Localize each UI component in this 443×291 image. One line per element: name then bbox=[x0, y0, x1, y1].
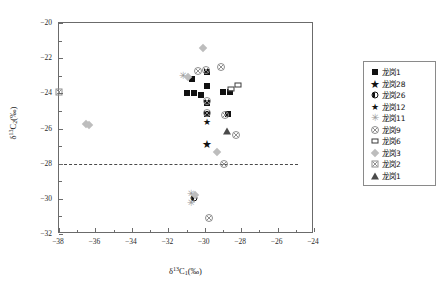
legend-item[interactable]: 龙岗1 bbox=[368, 66, 432, 78]
legend-item[interactable]: 龙岗26 bbox=[368, 89, 432, 101]
y-tick-minor bbox=[59, 181, 62, 182]
y-tick bbox=[59, 199, 63, 200]
plot-area: ★★✳✳✳ bbox=[58, 22, 313, 233]
x-tick-minor bbox=[114, 230, 115, 233]
x-tick-label: −32 bbox=[161, 237, 173, 246]
x-tick-label: −38 bbox=[52, 237, 64, 246]
legend-label: 龙岗6 bbox=[382, 135, 401, 146]
y-tick-minor bbox=[59, 41, 62, 42]
data-point bbox=[232, 131, 240, 139]
data-point bbox=[203, 109, 211, 117]
x-tick-minor bbox=[223, 230, 224, 233]
legend-item[interactable]: ★龙岗12 bbox=[368, 101, 432, 113]
data-point bbox=[217, 63, 225, 71]
legend-marker-icon: ★ bbox=[368, 101, 382, 113]
data-point bbox=[191, 90, 197, 96]
y-tick-minor bbox=[59, 111, 62, 112]
legend-item[interactable]: 龙岗9 bbox=[368, 124, 432, 136]
data-point bbox=[220, 160, 228, 168]
legend-marker-icon bbox=[368, 135, 382, 147]
data-point bbox=[223, 128, 231, 135]
y-tick-minor bbox=[59, 216, 62, 217]
legend[interactable]: 龙岗1★龙岗28龙岗26★龙岗12✳龙岗11龙岗9龙岗6龙岗3龙岗2龙岗1 bbox=[363, 61, 436, 186]
y-tick-label: −20 bbox=[24, 18, 52, 27]
x-tick bbox=[241, 228, 242, 232]
legend-item[interactable]: 龙岗2 bbox=[368, 158, 432, 170]
data-point bbox=[204, 83, 210, 89]
x-tick-minor bbox=[296, 230, 297, 233]
data-point: ★ bbox=[202, 141, 212, 147]
data-point bbox=[203, 97, 211, 105]
data-point bbox=[184, 90, 190, 96]
x-tick-label: −24 bbox=[307, 237, 319, 246]
x-tick bbox=[205, 228, 206, 232]
data-point bbox=[221, 111, 229, 119]
x-tick-minor bbox=[150, 230, 151, 233]
y-tick bbox=[59, 93, 63, 94]
y-tick-label: −24 bbox=[24, 88, 52, 97]
x-tick bbox=[132, 228, 133, 232]
x-tick-minor bbox=[187, 230, 188, 233]
legend-label: 龙岗9 bbox=[382, 124, 401, 135]
y-tick bbox=[59, 58, 63, 59]
legend-marker-icon bbox=[368, 66, 382, 78]
legend-label: 龙岗26 bbox=[382, 89, 406, 100]
data-point bbox=[235, 83, 242, 88]
y-tick-label: −30 bbox=[24, 193, 52, 202]
y-tick bbox=[59, 164, 63, 165]
legend-label: 龙岗28 bbox=[382, 78, 406, 89]
y-axis-title-element: C bbox=[8, 124, 18, 130]
data-point bbox=[213, 148, 221, 156]
x-tick-minor bbox=[259, 230, 260, 233]
legend-item[interactable]: ★龙岗28 bbox=[368, 78, 432, 90]
legend-marker-icon bbox=[368, 147, 382, 159]
legend-marker-icon: ★ bbox=[368, 78, 382, 90]
x-tick-label: −26 bbox=[271, 237, 283, 246]
x-axis-title-unit: (‰) bbox=[188, 266, 202, 276]
legend-marker-icon bbox=[368, 170, 382, 182]
x-tick-minor bbox=[77, 230, 78, 233]
y-axis-title-superscript: 13 bbox=[8, 129, 14, 135]
x-tick bbox=[278, 228, 279, 232]
x-tick bbox=[314, 228, 315, 232]
y-tick-label: −32 bbox=[24, 229, 52, 238]
legend-marker-icon: ✳ bbox=[368, 112, 382, 124]
y-tick bbox=[59, 234, 63, 235]
reference-line-minus28 bbox=[59, 164, 298, 165]
legend-item[interactable]: 龙岗6 bbox=[368, 135, 432, 147]
y-tick-minor bbox=[59, 76, 62, 77]
y-tick-label: −28 bbox=[24, 158, 52, 167]
x-tick-label: −30 bbox=[198, 237, 210, 246]
y-axis-title-subscript: 2 bbox=[12, 121, 18, 124]
x-tick bbox=[59, 228, 60, 232]
y-tick bbox=[59, 129, 63, 130]
y-axis-title-unit: (‰) bbox=[8, 107, 18, 121]
legend-marker-icon bbox=[368, 158, 382, 170]
chart-root: ★★✳✳✳ −38−36−34−32−30−28−26−24 −20−22−24… bbox=[0, 0, 443, 291]
y-tick-label: −26 bbox=[24, 123, 52, 132]
data-point bbox=[202, 66, 210, 74]
data-point: ✳ bbox=[187, 200, 195, 206]
data-point bbox=[205, 214, 213, 222]
legend-item[interactable]: ✳龙岗11 bbox=[368, 112, 432, 124]
x-axis-title: δ13C1(‰) bbox=[58, 266, 313, 276]
y-tick-label: −22 bbox=[24, 53, 52, 62]
y-axis-title-delta: δ bbox=[8, 135, 18, 139]
legend-label: 龙岗2 bbox=[382, 158, 401, 169]
legend-label: 龙岗1 bbox=[382, 170, 401, 181]
legend-label: 龙岗12 bbox=[382, 101, 406, 112]
data-point bbox=[220, 89, 226, 95]
legend-item[interactable]: 龙岗3 bbox=[368, 147, 432, 159]
data-point bbox=[228, 86, 235, 91]
x-tick bbox=[168, 228, 169, 232]
legend-label: 龙岗1 bbox=[382, 66, 401, 77]
legend-label: 龙岗11 bbox=[382, 112, 406, 123]
legend-item[interactable]: 龙岗1 bbox=[368, 170, 432, 182]
y-tick-minor bbox=[59, 146, 62, 147]
data-point: ★ bbox=[203, 119, 211, 125]
x-tick bbox=[95, 228, 96, 232]
y-tick bbox=[59, 23, 63, 24]
y-axis-title: δ13C2(‰) bbox=[8, 93, 18, 153]
x-tick-label: −36 bbox=[89, 237, 101, 246]
legend-label: 龙岗3 bbox=[382, 147, 401, 158]
